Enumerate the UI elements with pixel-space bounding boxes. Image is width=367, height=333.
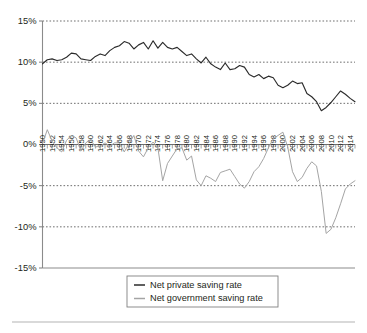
y-tick-label-0: 0% bbox=[23, 138, 37, 149]
x-tick-label-1994: 1994 bbox=[250, 135, 259, 152]
x-tick-label-1990: 1990 bbox=[230, 135, 239, 152]
net-saving-rates-line-chart: 15%10%5%0%-5%-10%-15% 195019521954195619… bbox=[0, 0, 367, 333]
x-tick-label-2008: 2008 bbox=[317, 135, 326, 152]
x-tick-label-1984: 1984 bbox=[202, 135, 211, 152]
x-tick-label-1952: 1952 bbox=[48, 135, 57, 152]
x-tick-label-1996: 1996 bbox=[259, 135, 268, 152]
y-tick-label-5: 5% bbox=[23, 97, 37, 108]
x-tick-label-1986: 1986 bbox=[211, 135, 220, 152]
x-tick-label-2002: 2002 bbox=[288, 135, 297, 152]
x-tick-label-1978: 1978 bbox=[173, 135, 182, 152]
x-tick-label-1988: 1988 bbox=[221, 135, 230, 152]
x-tick-label-2004: 2004 bbox=[298, 135, 307, 152]
y-tick-label--15: -15% bbox=[15, 262, 37, 273]
x-tick-label-2012: 2012 bbox=[336, 135, 345, 152]
x-tick-label-1980: 1980 bbox=[182, 135, 191, 152]
chart-figure: 15%10%5%0%-5%-10%-15% 195019521954195619… bbox=[0, 0, 367, 333]
x-tick-label-1976: 1976 bbox=[163, 135, 172, 152]
legend-label-net-government-saving-rate: Net government saving rate bbox=[150, 293, 263, 303]
y-tick-label--10: -10% bbox=[15, 221, 37, 232]
legend-label-net-private-saving-rate: Net private saving rate bbox=[150, 280, 242, 290]
x-tick-label-2010: 2010 bbox=[327, 135, 336, 152]
x-tick-label-2014: 2014 bbox=[346, 135, 355, 152]
x-tick-label-1970: 1970 bbox=[134, 135, 143, 152]
x-tick-label-1982: 1982 bbox=[192, 135, 201, 152]
x-tick-label-1992: 1992 bbox=[240, 135, 249, 152]
y-tick-label-15: 15% bbox=[18, 15, 37, 26]
x-tick-label-2006: 2006 bbox=[307, 135, 316, 152]
chart-legend: Net private saving rateNet government sa… bbox=[127, 276, 278, 307]
y-tick-label-10: 10% bbox=[18, 56, 37, 67]
x-tick-label-1960: 1960 bbox=[86, 135, 95, 152]
y-tick-label--5: -5% bbox=[20, 180, 37, 191]
